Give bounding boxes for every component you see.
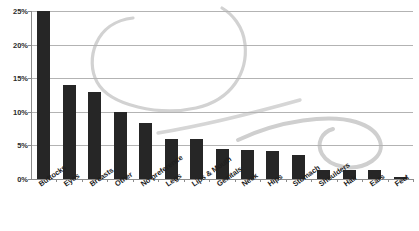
x-axis-tick-mark	[311, 179, 312, 182]
x-axis-tick-mark	[184, 179, 185, 182]
x-axis-tick-mark	[209, 179, 210, 182]
bar-chart: 0%5%10%15%20%25% ButtocksEyesBreastsOthe…	[0, 0, 419, 231]
y-axis-tick-mark	[28, 179, 31, 180]
y-axis-tick-label: 25%	[2, 7, 28, 16]
x-axis-tick-mark	[286, 179, 287, 182]
bar	[88, 92, 101, 179]
x-axis-tick-mark	[260, 179, 261, 182]
x-axis-labels: ButtocksEyesBreastsOtherNo preferenceLeg…	[31, 181, 413, 231]
y-axis-tick-label: 10%	[2, 107, 28, 116]
bar	[114, 112, 127, 179]
bar	[37, 11, 50, 179]
x-axis-tick-mark	[388, 179, 389, 182]
y-axis-tick-label: 0%	[2, 175, 28, 184]
x-axis-tick-mark	[133, 179, 134, 182]
x-axis-tick-mark	[362, 179, 363, 182]
bar	[63, 85, 76, 179]
y-axis-tick-label: 20%	[2, 40, 28, 49]
bar	[139, 123, 152, 179]
x-axis-tick-mark	[158, 179, 159, 182]
y-axis-tick-label: 15%	[2, 74, 28, 83]
x-axis-tick-mark	[82, 179, 83, 182]
x-axis-tick-mark	[56, 179, 57, 182]
y-axis-ticks: 0%5%10%15%20%25%	[0, 11, 28, 179]
x-axis-tick-mark	[107, 179, 108, 182]
x-axis-tick-mark	[413, 179, 414, 182]
bar-series	[31, 11, 413, 179]
x-axis-tick-mark	[337, 179, 338, 182]
x-axis-tick-mark	[235, 179, 236, 182]
y-axis-tick-label: 5%	[2, 141, 28, 150]
